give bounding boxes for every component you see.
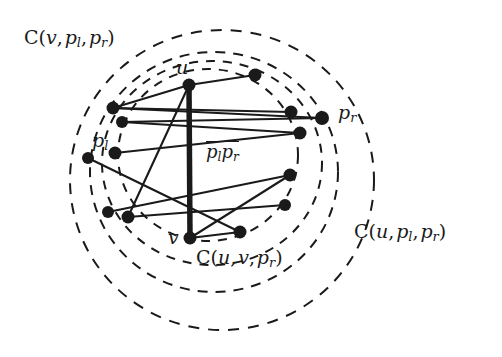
right-point-6 [279,199,291,211]
left-point-5 [102,206,114,218]
edge-l2-pr [122,118,322,122]
left-point-pl [109,147,122,160]
right-point-2 [285,106,298,119]
vertex-v-dot [184,232,197,245]
right-point-4 [294,127,307,140]
edge-u-r1 [189,75,255,85]
thick-segment-uv [189,85,190,238]
label-circle-u-v-pr: C(u, v, pr) [196,248,283,270]
label-point-pl: pl [92,131,108,153]
edge-l2-r4 [122,122,300,133]
circle-outer-v-pl-pr [70,30,374,330]
label-point-pr: pr [338,103,356,125]
thick-segment-uv [189,85,190,238]
label-segment-pl-pr: plpr [206,141,239,163]
figure-canvas [0,0,502,357]
right-point-pr [315,111,329,125]
vertex-u-dot [183,79,196,92]
left-point-2 [116,116,128,128]
left-point-4 [82,152,94,164]
label-vertex-v: v [168,228,179,247]
dashed-circles-layer [70,30,374,330]
left-point-6 [122,211,135,224]
label-circle-v-pl-pr: C(v, pl, pr) [24,28,115,50]
label-vertex-u: u [176,58,188,77]
right-point-5 [284,169,297,182]
right-point-1 [249,69,262,82]
left-point-1 [107,102,120,115]
label-circle-u-pl-pr: C(u, pl, pr) [354,222,446,244]
right-point-7 [234,226,247,239]
geometry-figure: C(v, pl, pr) C(u, pl, pr) C(u, v, pr) u … [0,0,502,357]
